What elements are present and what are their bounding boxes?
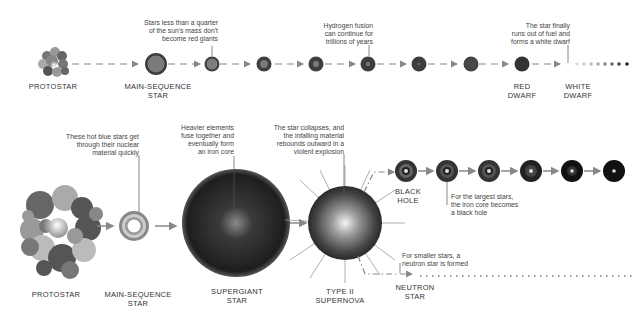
collapse-note: The star collapses, and the infalling ma… [256,124,344,156]
top-protostar-label: PROTOSTAR [18,82,88,91]
main-sequence-small-icon [145,53,167,75]
hydrogen-fusion-note: Hydrogen fusion can continue for trillio… [305,22,373,46]
blue-stars-note: These hot blue stars get through their n… [45,133,139,157]
iron-core-note: Heavier elements fuse together and event… [170,124,234,156]
protostar-large-icon [20,185,103,279]
white-dwarf-label: WHITE DWARF [553,82,603,100]
supernova-icon [285,165,405,283]
red-dwarf-icon [515,57,530,72]
neutron-star-label: NEUTRON STAR [390,283,440,301]
red-dwarf-label: RED DWARF [500,82,544,100]
bottom-protostar-label: PROTOSTAR [18,290,94,299]
quarter-mass-note: Stars less than a quarter of the sun's m… [120,19,218,43]
largest-stars-note: For the largest stars, the iron core bec… [451,193,541,217]
white-dwarf-note: The star finally runs out of fuel and fo… [488,22,570,46]
protostar-small-icon [38,47,69,77]
bottom-main-sequence-label: MAIN-SEQUENCE STAR [96,290,180,308]
supernova-label: TYPE II SUPERNOVA [305,287,375,305]
white-dwarf-dots-icon [575,62,629,66]
black-hole-icon [395,160,417,182]
supergiant-label: SUPERGIANT STAR [202,287,272,305]
top-main-sequence-label: MAIN-SEQUENCE STAR [116,82,200,100]
smaller-stars-note: For smaller stars, a neutron star is for… [402,252,492,268]
supergiant-star-icon [182,169,290,277]
bottom-row [20,154,636,283]
black-hole-sequence [395,160,625,182]
top-row [38,45,629,77]
black-hole-label: BLACK HOLE [388,187,428,205]
blue-main-sequence-icon [119,211,149,241]
